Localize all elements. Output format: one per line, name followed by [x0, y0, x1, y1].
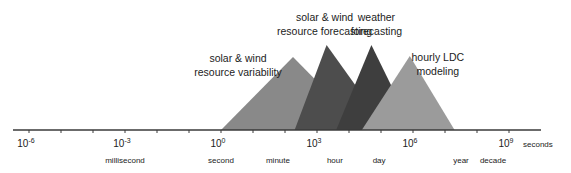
tick-label: 10-6 — [17, 137, 34, 149]
time-unit-label: day — [373, 156, 386, 165]
triangle-label: hourly LDC — [412, 51, 465, 63]
tick-label: 109 — [498, 137, 513, 149]
tick-label: 103 — [306, 137, 321, 149]
triangle-label: forecasting — [351, 25, 403, 37]
tick-label: 106 — [402, 137, 417, 149]
triangle-label: solar & wind — [209, 52, 266, 64]
time-unit-label: second — [208, 156, 234, 165]
time-unit-label: millisecond — [105, 156, 145, 165]
triangle-label: weather — [357, 11, 396, 23]
time-unit-label: hour — [327, 156, 343, 165]
time-unit-label: year — [453, 156, 469, 165]
axis-unit-label: seconds — [523, 140, 553, 149]
time-unit-label: minute — [266, 156, 291, 165]
triangle-label: resource variability — [194, 66, 282, 78]
tick-label: 100 — [210, 137, 225, 149]
triangle-label: modeling — [416, 65, 459, 77]
triangle-label: solar & wind — [296, 11, 353, 23]
time-unit-label: decade — [480, 156, 507, 165]
timescale-diagram: solar & windresource variabilitysolar & … — [0, 0, 571, 173]
tick-label: 10-3 — [113, 137, 130, 149]
